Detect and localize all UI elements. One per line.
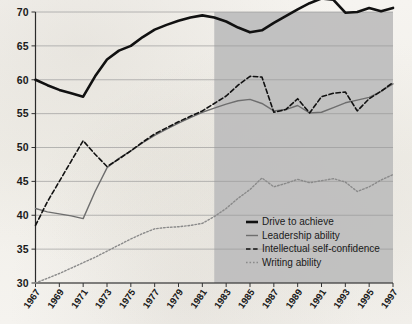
x-axis-label-1997: 1997 xyxy=(379,287,400,311)
x-axis-label-1983: 1983 xyxy=(212,287,233,311)
legend-label-4: Writing ability xyxy=(262,257,321,268)
y-axis-label-30: 30 xyxy=(17,277,29,289)
y-axis-label-70: 70 xyxy=(17,6,29,18)
x-axis-label-1975: 1975 xyxy=(116,286,138,310)
x-axis-label-1995: 1995 xyxy=(355,286,377,310)
x-axis-label-1969: 1969 xyxy=(45,287,66,311)
x-axis-label-1989: 1989 xyxy=(283,287,304,311)
x-axis-label-1991: 1991 xyxy=(307,286,329,310)
legend-label-3: Intellectual self-confidence xyxy=(262,243,380,254)
x-axis-label-1985: 1985 xyxy=(236,286,258,310)
x-axis-label-1977: 1977 xyxy=(140,287,161,311)
y-axis-label-55: 55 xyxy=(17,107,29,119)
y-axis-label-35: 35 xyxy=(17,243,29,255)
y-axis-label-60: 60 xyxy=(17,74,29,86)
legend-label-1: Drive to achieve xyxy=(262,216,334,227)
y-axis-label-65: 65 xyxy=(17,40,29,52)
x-axis-label-1967: 1967 xyxy=(21,287,42,311)
y-axis-label-40: 40 xyxy=(17,209,29,221)
x-axis-label-1971: 1971 xyxy=(69,286,91,310)
y-axis-label-45: 45 xyxy=(17,175,29,187)
x-axis-label-1973: 1973 xyxy=(93,287,114,311)
line-chart: 3035404550556065701967196919711973197519… xyxy=(0,0,412,324)
legend-label-2: Leadership ability xyxy=(262,230,340,241)
x-axis-label-1979: 1979 xyxy=(164,287,185,311)
x-axis-label-1987: 1987 xyxy=(259,287,280,311)
x-axis-label-1981: 1981 xyxy=(188,286,210,310)
x-axis-label-1993: 1993 xyxy=(331,287,352,311)
y-axis-label-50: 50 xyxy=(17,141,29,153)
chart-container: 3035404550556065701967196919711973197519… xyxy=(0,0,412,324)
